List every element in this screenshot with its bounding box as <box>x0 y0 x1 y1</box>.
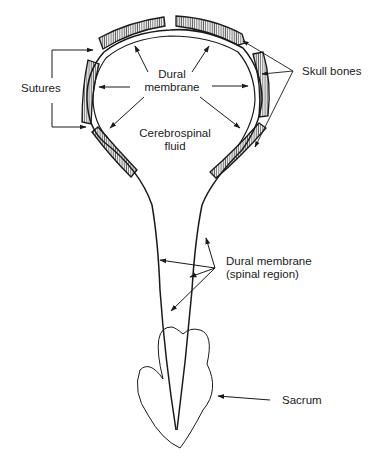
label-sacrum: Sacrum <box>282 394 322 407</box>
label-dural-membrane: Dural membrane <box>138 68 206 94</box>
label-skull-bones: Skull bones <box>302 65 361 78</box>
label-cerebrospinal-fluid: Cerebrospinal fluid <box>130 127 220 153</box>
sacrum-outline <box>137 327 212 448</box>
spinal-dura-pointers <box>160 238 215 311</box>
dura-outer-right <box>177 48 262 430</box>
label-sutures: Sutures <box>21 82 61 95</box>
sacrum-pointer <box>218 396 270 400</box>
bone-left <box>82 60 99 124</box>
bone-top-left <box>99 17 165 49</box>
label-dural-membrane-spinal: Dural membrane (spinal region) <box>226 255 312 281</box>
skull-bones <box>82 16 269 178</box>
